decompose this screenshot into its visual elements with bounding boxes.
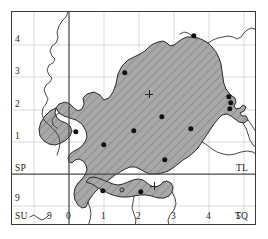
axis-label-bottom-9: 9 <box>47 212 52 222</box>
distribution-map-figure: 4 3 2 1 SP 9 SU 9 0 1 2 3 4 5 TL TQ <box>0 0 268 239</box>
map-geography-svg <box>12 12 255 224</box>
axis-label-left-9: 9 <box>15 194 20 204</box>
reference-point-cross <box>145 90 153 98</box>
axis-label-sheet-tq: TQ <box>235 212 248 222</box>
axis-label-left-2: 2 <box>15 100 20 110</box>
map-geography-stage <box>12 12 255 224</box>
map-neatline-frame <box>11 11 256 225</box>
axis-label-left-1: 1 <box>15 132 20 142</box>
axis-label-left-4: 4 <box>15 35 20 45</box>
axis-label-bottom-0: 0 <box>66 212 71 222</box>
axis-label-sheet-sp: SP <box>15 164 26 174</box>
axis-label-sheet-tl: TL <box>236 164 248 174</box>
axis-label-bottom-2: 2 <box>136 212 141 222</box>
axis-label-left-3: 3 <box>15 67 20 77</box>
reference-point-cross <box>150 182 158 190</box>
axis-label-sheet-su: SU <box>15 212 28 222</box>
axis-label-bottom-1: 1 <box>101 212 106 222</box>
axis-label-bottom-4: 4 <box>206 212 211 222</box>
study-area-southern-lobe <box>86 177 173 198</box>
axis-label-bottom-3: 3 <box>171 212 176 222</box>
